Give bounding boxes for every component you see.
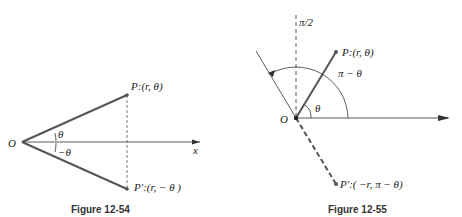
theta-arc xyxy=(55,133,56,141)
segment-op-prime xyxy=(22,142,127,189)
caption-12-55: Figure 12-55 xyxy=(328,204,387,215)
polar-axis-arrow-icon xyxy=(438,115,450,121)
point-p-label: P:(r, θ) xyxy=(130,80,163,93)
reflected-ray xyxy=(256,51,296,118)
vertical-axis-label: π/2 xyxy=(299,16,314,28)
caption-12-54: Figure 12-54 xyxy=(71,204,130,215)
neg-theta-label: −θ xyxy=(58,146,71,158)
origin-label: O xyxy=(8,137,16,149)
figure-12-55: π/2 O P:(r, θ) π − θ θ P′:( −r, π − θ) F… xyxy=(256,15,450,215)
point-p xyxy=(334,50,338,54)
theta-label: θ xyxy=(58,128,64,140)
neg-theta-arc xyxy=(55,143,56,152)
point-p-prime-label: P′:( −r, π − θ) xyxy=(339,178,403,191)
theta-label: θ xyxy=(315,102,321,114)
point-p-prime xyxy=(125,187,129,191)
origin-point xyxy=(294,116,298,120)
point-p xyxy=(125,93,129,97)
diagram-canvas: O x P:(r, θ) P′:(r, − θ ) θ −θ Figure 12… xyxy=(0,0,462,217)
pi-minus-theta-label: π − θ xyxy=(338,67,362,79)
segment-op xyxy=(22,95,127,142)
point-p-prime-label: P′:(r, − θ ) xyxy=(133,181,181,194)
segment-op-prime xyxy=(296,118,336,184)
pi-minus-theta-arc xyxy=(270,67,348,118)
origin-label: O xyxy=(280,113,288,125)
x-axis-label: x xyxy=(192,144,198,156)
theta-arc xyxy=(305,105,311,118)
point-p-label: P:(r, θ) xyxy=(341,46,374,59)
figure-12-54: O x P:(r, θ) P′:(r, − θ ) θ −θ Figure 12… xyxy=(8,80,200,215)
arc-arrow-icon xyxy=(268,70,275,77)
point-p-prime xyxy=(334,182,338,186)
